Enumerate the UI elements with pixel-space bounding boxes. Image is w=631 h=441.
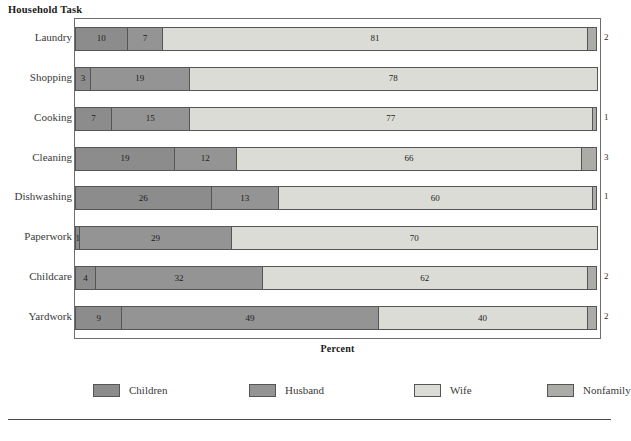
bar-row[interactable]: 12970: [75, 226, 600, 250]
bar-segment-value: 77: [386, 114, 395, 123]
bar-segment-value: 40: [478, 314, 487, 323]
bar-row[interactable]: 261360: [75, 186, 600, 210]
bar-segment[interactable]: 15: [111, 107, 190, 131]
bar-segment-value: 7: [143, 34, 148, 43]
y-axis-tick-label: Laundry: [4, 32, 72, 43]
bar-segment[interactable]: 81: [162, 27, 587, 51]
legend-label: Wife: [450, 385, 472, 396]
bar-segment[interactable]: 9: [75, 306, 122, 330]
legend-item[interactable]: Nonfamily: [547, 382, 631, 398]
bar-segment[interactable]: 32: [95, 266, 263, 290]
legend-swatch: [547, 384, 574, 397]
y-axis-tick-label: Yardwork: [4, 311, 72, 322]
y-axis-category-labels: LaundryShoppingCookingCleaningDishwashin…: [0, 18, 72, 339]
bar-segment-value: 4: [83, 274, 88, 283]
legend-swatch: [249, 384, 276, 397]
bar-segment[interactable]: [587, 306, 598, 330]
bar-segment[interactable]: [592, 186, 597, 210]
bar-segment[interactable]: [587, 266, 598, 290]
chart-title: Household Task: [8, 4, 82, 15]
bar-segment[interactable]: 26: [75, 186, 212, 210]
bar-segment-value: 70: [410, 234, 419, 243]
bar-outside-value: 2: [604, 33, 609, 42]
bar-segment-value: 3: [81, 74, 86, 83]
bar-outside-value: 2: [604, 312, 609, 321]
y-axis-tick-label: Paperwork: [4, 231, 72, 242]
bar-segment-value: 15: [146, 114, 155, 123]
footer-rule: [8, 419, 611, 420]
bar-segment-value: 60: [431, 194, 440, 203]
bar-segment-value: 66: [405, 154, 414, 163]
bar-segment-value: 32: [175, 274, 184, 283]
bar-segment[interactable]: 62: [262, 266, 588, 290]
bar-outside-value: 1: [604, 192, 609, 201]
legend-label: Husband: [285, 385, 324, 396]
bar-row[interactable]: 10781: [75, 27, 600, 51]
bar-row[interactable]: 191266: [75, 147, 600, 171]
bar-segment[interactable]: 49: [121, 306, 378, 330]
legend-item[interactable]: Children: [93, 382, 168, 398]
bar-segment-value: 13: [240, 194, 249, 203]
legend-item[interactable]: Husband: [249, 382, 324, 398]
bar-row[interactable]: 94940: [75, 306, 600, 330]
bar-segment-value: 10: [97, 34, 106, 43]
bar-segment-value: 9: [96, 314, 101, 323]
legend-label: Children: [129, 385, 168, 396]
bar-segment-value: 81: [370, 34, 379, 43]
bar-row[interactable]: 31978: [75, 67, 600, 91]
bar-segment[interactable]: 10: [75, 27, 128, 51]
bar-segment[interactable]: 7: [75, 107, 112, 131]
bar-segment-value: 62: [420, 274, 429, 283]
bar-segment-value: 29: [151, 234, 160, 243]
legend-swatch: [93, 384, 120, 397]
x-axis-title: Percent: [74, 343, 601, 354]
bar-segment-value: 19: [120, 154, 129, 163]
bar-segment-value: 12: [201, 154, 210, 163]
y-axis-tick-label: Childcare: [4, 271, 72, 282]
bar-segment-value: 26: [139, 194, 148, 203]
bar-segment-value: 19: [135, 74, 144, 83]
bar-segment-value: 7: [91, 114, 96, 123]
bar-segment[interactable]: 78: [189, 67, 599, 91]
bar-segment[interactable]: [581, 147, 597, 171]
bar-segment[interactable]: 13: [211, 186, 279, 210]
bar-segment[interactable]: [592, 107, 597, 131]
plot-area: 1078131978715771912662613601297043262949…: [74, 18, 601, 339]
bar-row[interactable]: 43262: [75, 266, 600, 290]
bar-segment[interactable]: 77: [189, 107, 593, 131]
bar-segment[interactable]: 19: [75, 147, 175, 171]
y-axis-tick-label: Dishwashing: [4, 191, 72, 202]
bar-segment[interactable]: 4: [75, 266, 96, 290]
legend-item[interactable]: Wife: [414, 382, 472, 398]
outside-value-labels: 213122: [601, 18, 619, 339]
chart-legend: ChildrenHusbandWifeNonfamily: [74, 382, 601, 404]
bar-segment-value: 49: [245, 314, 254, 323]
bar-row[interactable]: 71577: [75, 107, 600, 131]
bar-segment[interactable]: 7: [127, 27, 164, 51]
legend-label: Nonfamily: [583, 385, 631, 396]
legend-swatch: [414, 384, 441, 397]
bar-outside-value: 3: [604, 153, 609, 162]
bar-segment[interactable]: [587, 27, 598, 51]
bar-segment[interactable]: 19: [90, 67, 190, 91]
bar-outside-value: 1: [604, 113, 609, 122]
bar-segment-value: 78: [389, 74, 398, 83]
y-axis-tick-label: Cooking: [4, 112, 72, 123]
bar-segment[interactable]: 70: [231, 226, 599, 250]
bar-segment[interactable]: 29: [79, 226, 231, 250]
bar-segment[interactable]: 40: [378, 306, 588, 330]
bar-segment[interactable]: 12: [174, 147, 237, 171]
bar-segment[interactable]: 66: [236, 147, 583, 171]
bar-outside-value: 2: [604, 272, 609, 281]
bar-segment[interactable]: 3: [75, 67, 91, 91]
y-axis-tick-label: Shopping: [4, 72, 72, 83]
bar-segment[interactable]: 60: [278, 186, 593, 210]
y-axis-tick-label: Cleaning: [4, 152, 72, 163]
